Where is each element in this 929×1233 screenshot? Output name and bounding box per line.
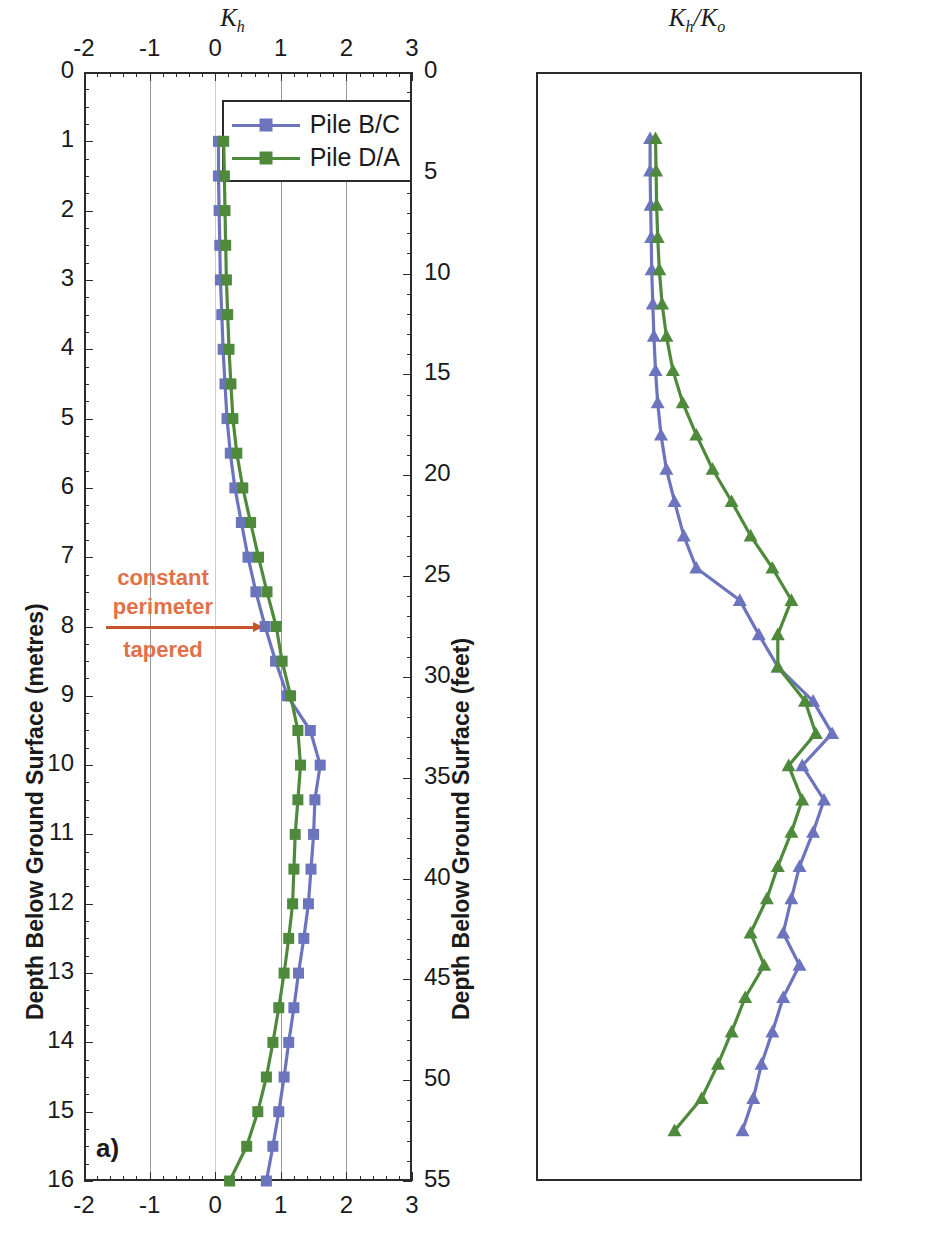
data-point: [784, 825, 798, 838]
data-point: [711, 1057, 725, 1070]
data-point: [795, 793, 809, 806]
data-point: [659, 462, 673, 475]
data-point: [677, 529, 691, 542]
data-point: [655, 297, 669, 310]
data-point: [689, 561, 703, 574]
data-point: [695, 1091, 709, 1104]
data-point: [806, 825, 820, 838]
data-point: [776, 926, 790, 939]
data-point: [736, 1124, 750, 1137]
data-point: [771, 859, 785, 872]
data-point: [755, 1057, 769, 1070]
data-point: [706, 462, 720, 475]
data-point: [659, 329, 673, 342]
data-point: [793, 859, 807, 872]
data-point: [725, 1025, 739, 1038]
data-point: [771, 660, 785, 673]
data-point: [738, 991, 752, 1004]
data-point: [776, 991, 790, 1004]
data-point: [825, 726, 839, 739]
data-point: [760, 892, 774, 905]
data-point: [784, 593, 798, 606]
data-point: [725, 495, 739, 508]
data-point: [647, 329, 661, 342]
series-layer-b: [0, 0, 929, 1233]
data-point: [757, 958, 771, 971]
data-point: [765, 1025, 779, 1038]
data-point: [744, 926, 758, 939]
data-point: [668, 495, 682, 508]
data-point: [784, 892, 798, 905]
data-point: [676, 396, 690, 409]
data-point: [689, 428, 703, 441]
data-point: [649, 363, 663, 376]
data-point: [771, 628, 785, 641]
data-point: [654, 428, 668, 441]
data-point: [746, 1091, 760, 1104]
data-point: [666, 363, 680, 376]
data-point: [809, 726, 823, 739]
data-point: [793, 958, 807, 971]
series-line-PileBC: [650, 139, 832, 1131]
data-point: [752, 628, 766, 641]
figure-root: Kh a) -2-2-1-100112233012345678910111213…: [0, 0, 929, 1233]
data-point: [744, 529, 758, 542]
data-point: [651, 396, 665, 409]
